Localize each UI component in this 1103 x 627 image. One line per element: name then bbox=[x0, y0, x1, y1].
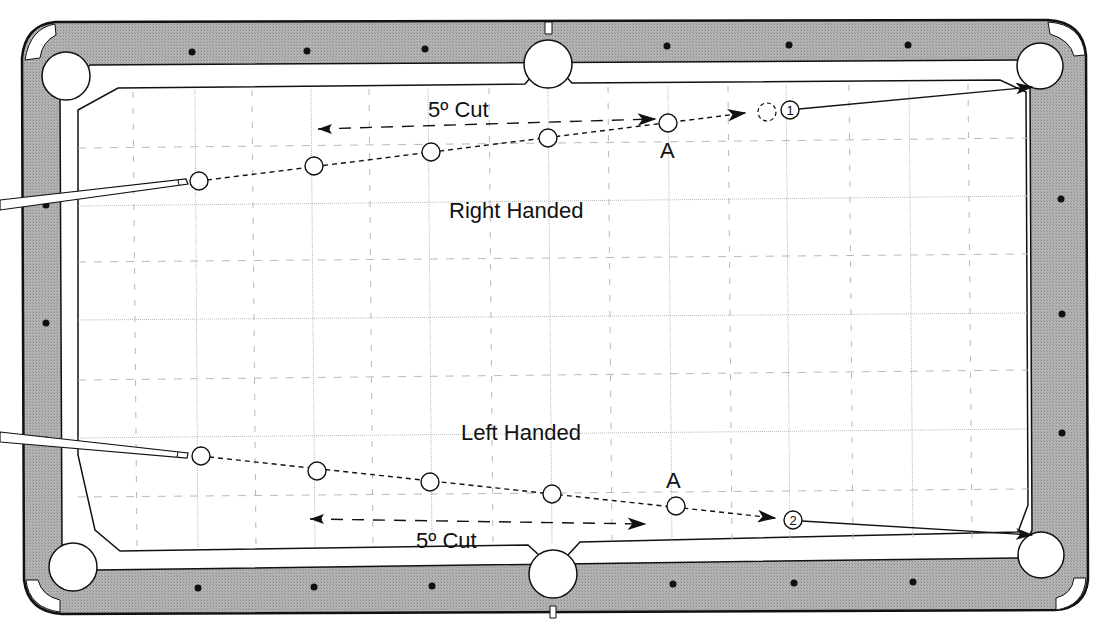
diamond-icon bbox=[311, 584, 318, 591]
ball bbox=[308, 462, 326, 480]
ball-a bbox=[659, 114, 677, 132]
cut-label-top: 5º Cut bbox=[428, 97, 489, 122]
point-a-label-top: A bbox=[660, 138, 675, 163]
diamond-icon bbox=[670, 581, 677, 588]
pocket-bottom-right bbox=[1018, 532, 1064, 578]
diamond-icon bbox=[905, 42, 912, 49]
diamond-icon bbox=[1059, 430, 1066, 437]
ball bbox=[305, 157, 323, 175]
ghost-ball bbox=[758, 103, 776, 121]
point-a-label-bottom: A bbox=[666, 468, 681, 493]
target-ball-2-label: 2 bbox=[789, 513, 796, 528]
diamond-icon bbox=[791, 580, 798, 587]
pocket-top-center bbox=[524, 40, 572, 88]
diamond-icon bbox=[786, 42, 793, 49]
cue-ball bbox=[190, 172, 208, 190]
ball bbox=[539, 129, 557, 147]
pocket-bottom-center bbox=[529, 550, 577, 598]
diamond-icon bbox=[1058, 196, 1065, 203]
diamond-icon bbox=[1059, 311, 1066, 318]
diamond-icon bbox=[422, 46, 429, 53]
ball bbox=[421, 473, 439, 491]
diamond-icon bbox=[43, 320, 50, 327]
pocket-bottom-left bbox=[49, 543, 97, 591]
cut-label-bottom: 5º Cut bbox=[416, 528, 477, 553]
diamond-icon bbox=[195, 585, 202, 592]
pool-table-diagram: 1 5º Cut A Right Handed 2 Left Handed A … bbox=[0, 0, 1103, 627]
diamond-icon bbox=[429, 583, 436, 590]
pocket-top-left bbox=[42, 52, 90, 100]
ball bbox=[543, 485, 561, 503]
table-frame bbox=[22, 20, 1088, 614]
left-handed-label: Left Handed bbox=[461, 420, 581, 445]
diamond-icon bbox=[910, 579, 917, 586]
pocket-top-right bbox=[1017, 43, 1063, 89]
diamond-icon bbox=[664, 43, 671, 50]
diamond-icon bbox=[304, 48, 311, 55]
ball bbox=[422, 143, 440, 161]
cue-ball bbox=[192, 447, 210, 465]
target-ball-1-label: 1 bbox=[786, 103, 793, 118]
ball-a bbox=[667, 497, 685, 515]
diamond-icon bbox=[189, 49, 196, 56]
right-handed-label: Right Handed bbox=[449, 198, 584, 223]
